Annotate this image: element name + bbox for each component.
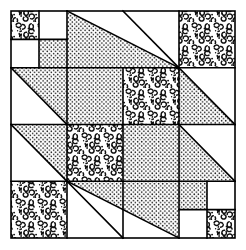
quilt-block-figure: Quilt Block Diagram Line-art quilt block… (0, 0, 246, 250)
patch-r1c1-tl (11, 11, 39, 39)
patch-r3c2 (67, 125, 123, 182)
quilt-block-canvas (0, 0, 246, 250)
patch-r2c2 (67, 68, 123, 125)
patch-r4c4-tl (179, 181, 207, 209)
patch-r4c4-bl (179, 210, 207, 238)
patch-r1c1-bl (11, 39, 39, 67)
patch-r1c1-tr (39, 11, 67, 39)
patch-r1c4 (179, 11, 235, 68)
patch-r2c3 (123, 68, 179, 125)
patch-r4c4-tr (207, 181, 235, 209)
patch-r4c4-br (207, 210, 235, 238)
patch-r1c1-br (39, 39, 67, 67)
patch-r4c1 (11, 181, 67, 238)
patch-r3c3 (123, 125, 179, 182)
